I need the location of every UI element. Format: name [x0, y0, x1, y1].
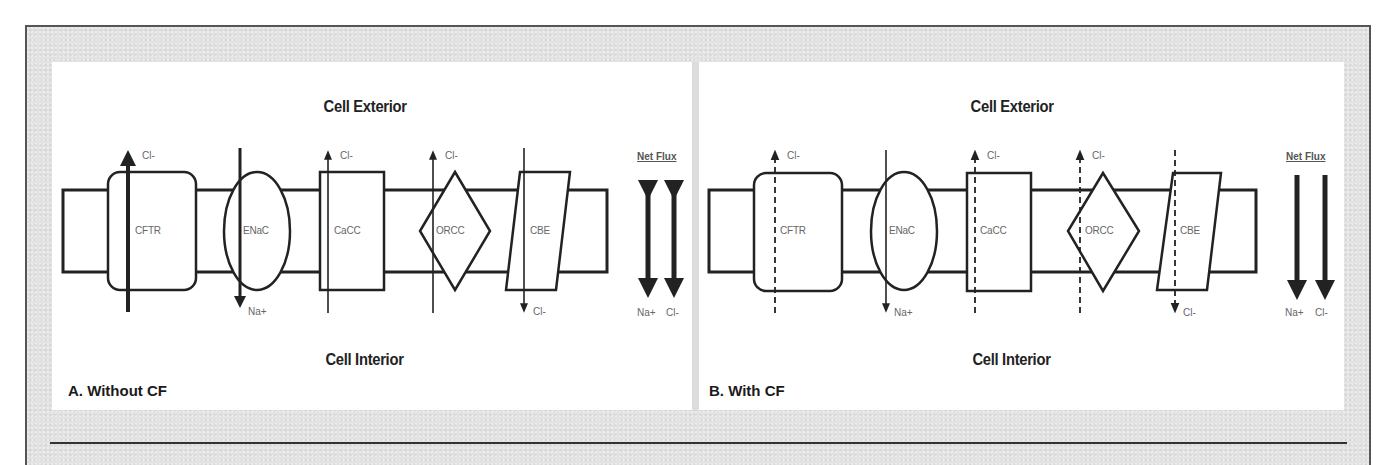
panel-divider: [692, 62, 699, 410]
cftr-label: CFTR: [135, 225, 161, 236]
orcc-ion-label: Cl-: [1092, 150, 1105, 161]
bottom-rule: [50, 442, 1347, 444]
panel-b-label: B. With CF: [709, 382, 785, 399]
orcc-label: ORCC: [436, 225, 465, 236]
enac-label: ENaC: [243, 225, 269, 236]
cftr-ion-label: Cl-: [787, 150, 800, 161]
cftr-label: CFTR: [780, 225, 806, 236]
cbe-ion-label: Cl-: [1183, 307, 1196, 318]
cbe-label: CBE: [1180, 225, 1200, 236]
panel-a-without-cf: Cell Exterior Cell Interior A. Without C…: [52, 62, 692, 410]
cacc-ion-label: Cl-: [340, 150, 353, 161]
net-flux-label: Net Flux: [637, 151, 676, 162]
cacc-label: CaCC: [980, 225, 1006, 236]
cbe-ion-label: Cl-: [533, 306, 546, 317]
orcc-label: ORCC: [1085, 225, 1114, 236]
cacc-ion-label: Cl-: [987, 150, 1000, 161]
netflux-na-label: Na+: [1285, 307, 1304, 318]
cell-exterior-label: Cell Exterior: [971, 98, 1054, 116]
orcc-ion-label: Cl-: [445, 150, 458, 161]
cell-exterior-label: Cell Exterior: [324, 98, 407, 116]
netflux-cl-label: Cl-: [666, 307, 679, 318]
panel-b-with-cf: Cell Exterior Cell Interior B. With CF C…: [699, 62, 1344, 410]
cell-interior-label: Cell Interior: [325, 351, 403, 369]
enac-ion-label: Na+: [894, 307, 913, 318]
enac-label: ENaC: [889, 225, 915, 236]
enac-ion-label: Na+: [248, 306, 267, 317]
netflux-cl-label: Cl-: [1315, 307, 1328, 318]
cell-interior-label: Cell Interior: [972, 351, 1050, 369]
netflux-na-label: Na+: [637, 307, 656, 318]
panel-a-label: A. Without CF: [68, 382, 167, 399]
cacc-label: CaCC: [334, 225, 360, 236]
net-flux-label: Net Flux: [1286, 151, 1325, 162]
cftr-ion-label: Cl-: [142, 150, 155, 161]
cbe-label: CBE: [530, 225, 550, 236]
